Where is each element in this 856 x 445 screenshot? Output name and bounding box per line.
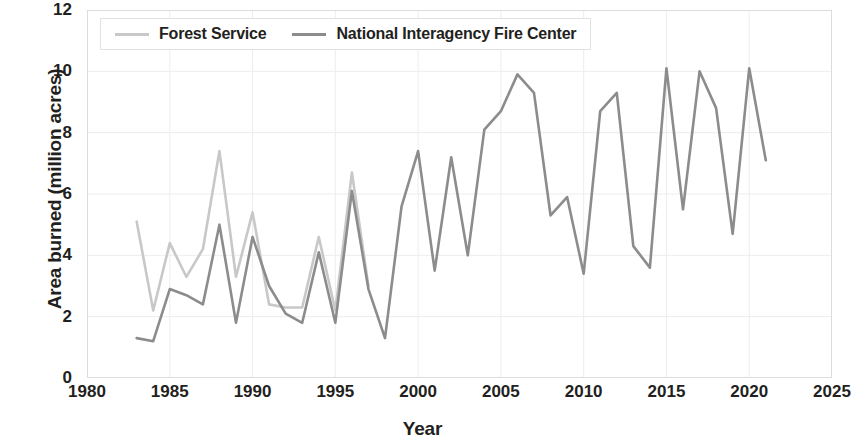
x-axis-tick-1985: 1985	[135, 382, 205, 402]
y-axis-tick-4: 4	[32, 245, 72, 265]
x-axis-tick-2005: 2005	[466, 382, 536, 402]
x-axis-tick-1990: 1990	[218, 382, 288, 402]
y-axis-tick-8: 8	[32, 123, 72, 143]
x-axis-tick-2000: 2000	[383, 382, 453, 402]
x-axis-tick-2025: 2025	[797, 382, 856, 402]
y-axis-tick-6: 6	[32, 184, 72, 204]
x-axis-title: Year	[0, 418, 845, 440]
y-axis-tick-labels: 121086420	[22, 0, 72, 445]
x-axis-tick-2020: 2020	[714, 382, 784, 402]
x-axis-tick-2015: 2015	[631, 382, 701, 402]
plot-svg	[87, 10, 832, 378]
y-axis-tick-10: 10	[32, 61, 72, 81]
legend-entry-2[interactable]: National Interagency Fire Center	[292, 25, 576, 43]
x-axis-tick-1980: 1980	[52, 382, 122, 402]
legend-label: Forest Service	[159, 25, 266, 43]
legend-line-swatch-icon	[115, 33, 149, 36]
y-axis-tick-2: 2	[32, 307, 72, 327]
x-axis-tick-1995: 1995	[300, 382, 370, 402]
chart-legend: Forest ServiceNational Interagency Fire …	[100, 18, 591, 50]
legend-label: National Interagency Fire Center	[336, 25, 576, 43]
y-axis-tick-12: 12	[32, 0, 72, 20]
legend-line-swatch-icon	[292, 33, 326, 36]
legend-entry-1[interactable]: Forest Service	[115, 25, 266, 43]
x-axis-tick-2010: 2010	[549, 382, 619, 402]
plot-area	[87, 10, 832, 378]
